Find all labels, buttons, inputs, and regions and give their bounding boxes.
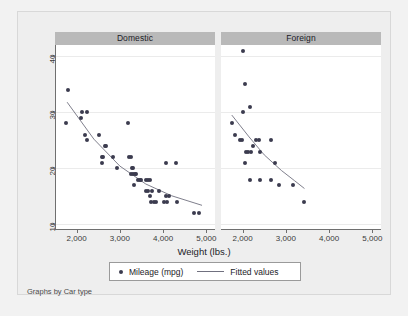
legend-label-mileage: Mileage (mpg) — [129, 267, 183, 277]
x-tick-mark — [77, 230, 78, 233]
chart-footnote: Graphs by Car type — [27, 287, 92, 296]
fitted-values-line — [55, 45, 215, 230]
panel-domestic: Domestic — [55, 32, 215, 230]
x-tick-mark — [163, 230, 164, 233]
panel-foreign: Foreign — [221, 32, 381, 230]
graph-region: 10203040 Domestic Foreign Weight (lbs.) … — [17, 11, 391, 295]
x-tick-mark — [120, 230, 121, 233]
scatter-point — [100, 161, 104, 165]
x-axis-spine — [55, 229, 215, 230]
x-axis-title: Weight (lbs.) — [18, 246, 390, 257]
scatter-point — [277, 183, 281, 187]
scatter-point — [302, 200, 306, 204]
x-tick-mark — [243, 230, 244, 233]
y-axis-spine — [55, 45, 56, 230]
x-tick-label: 4,000 — [153, 234, 173, 243]
x-tick-label: 3,000 — [276, 234, 296, 243]
x-tick-label: 2,000 — [67, 234, 87, 243]
x-tick-mark — [372, 230, 373, 233]
panel-title-domestic: Domestic — [55, 32, 215, 45]
x-tick-label: 3,000 — [110, 234, 130, 243]
x-tick-label: 5,000 — [196, 234, 216, 243]
scatter-point — [157, 189, 161, 193]
chart-legend: Mileage (mpg) Fitted values — [109, 262, 301, 281]
x-axis-spine — [221, 229, 381, 230]
scatter-point — [85, 138, 89, 142]
scatter-point — [258, 178, 262, 182]
scatter-point — [97, 133, 101, 137]
scatter-point — [83, 133, 87, 137]
chart-screenshot: 10203040 Domestic Foreign Weight (lbs.) … — [0, 0, 408, 316]
legend-entry-mileage: Mileage (mpg) — [119, 267, 183, 277]
x-tick-label: 5,000 — [362, 234, 382, 243]
scatter-point — [154, 200, 158, 204]
scatter-point — [233, 133, 237, 137]
legend-label-fitted: Fitted values — [230, 267, 278, 277]
x-tick-mark — [329, 230, 330, 233]
plot-inner-domestic — [55, 45, 215, 230]
plot-area-foreign — [221, 45, 381, 230]
plot-area-domestic — [55, 45, 215, 230]
x-tick-label: 4,000 — [319, 234, 339, 243]
scatter-point — [101, 155, 105, 159]
scatter-point — [258, 150, 262, 154]
x-tick-label: 2,000 — [233, 234, 253, 243]
x-tick-mark — [206, 230, 207, 233]
x-tick-mark — [286, 230, 287, 233]
scatter-point — [174, 161, 178, 165]
scatter-point — [85, 110, 89, 114]
scatter-point — [127, 155, 131, 159]
scatter-point — [251, 144, 255, 148]
scatter-point — [248, 105, 252, 109]
scatter-point — [243, 161, 247, 165]
plot-inner-foreign — [221, 45, 381, 230]
scatter-point — [273, 161, 277, 165]
scatter-point — [164, 161, 168, 165]
scatter-point — [249, 150, 253, 154]
scatter-point — [269, 178, 273, 182]
scatter-point — [66, 88, 70, 92]
legend-marker-line-icon — [197, 271, 224, 272]
fitted-values-line — [221, 45, 381, 230]
panel-title-foreign: Foreign — [221, 32, 381, 45]
scatter-point — [148, 178, 152, 182]
legend-entry-fitted: Fitted values — [197, 267, 278, 277]
legend-marker-dot-icon — [119, 270, 123, 274]
scatter-point — [111, 155, 115, 159]
scatter-point — [248, 178, 252, 182]
